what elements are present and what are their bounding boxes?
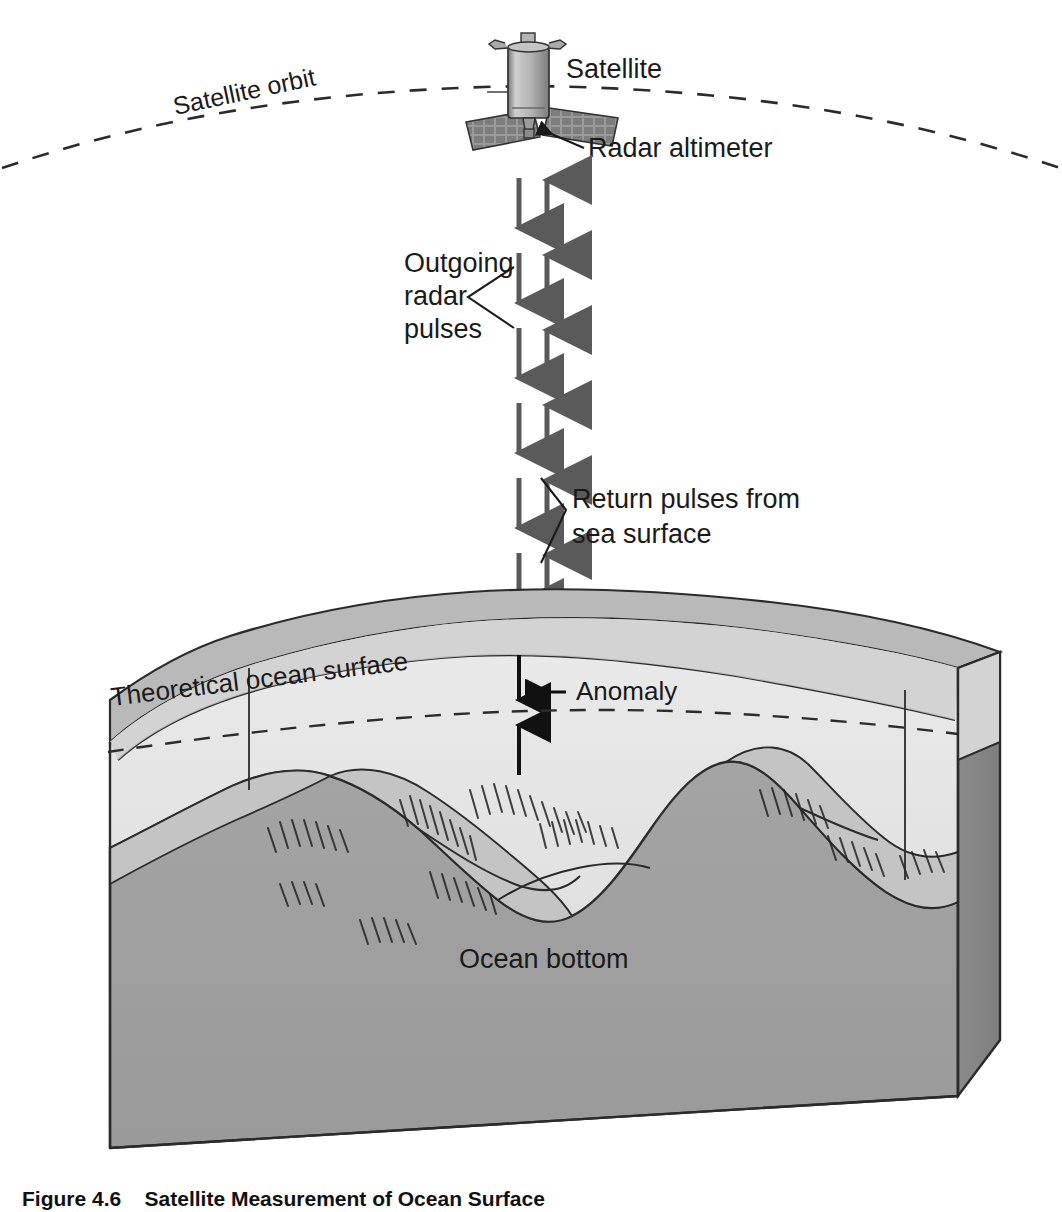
block-right-face: [958, 652, 1000, 1096]
radar-altimeter-label: Radar altimeter: [588, 133, 773, 163]
radar-altimeter-icon: [523, 118, 535, 138]
figure-caption: Figure 4.6 Satellite Measurement of Ocea…: [22, 1186, 1042, 1212]
satellite-orbit-label: Satellite orbit: [171, 62, 318, 119]
return-pulses-line2: sea surface: [572, 519, 712, 549]
outgoing-pulses-line1: Outgoing: [404, 248, 514, 278]
return-pulses-line1: Return pulses from: [572, 484, 800, 514]
satellite-body-icon: [487, 42, 549, 118]
caption-text: Satellite Measurement of Ocean Surface: [145, 1187, 545, 1210]
outgoing-pulses-line2: radar: [404, 281, 467, 311]
ocean-bottom-label: Ocean bottom: [459, 944, 629, 974]
satellite-label: Satellite: [566, 54, 662, 84]
outgoing-pulses-annotation: Outgoing radar pulses: [404, 248, 514, 344]
return-pulses-annotation: Return pulses from sea surface: [541, 478, 800, 563]
outgoing-pulses-line3: pulses: [404, 314, 482, 344]
anomaly-label: Anomaly: [576, 676, 677, 706]
caption-number: Figure 4.6: [22, 1187, 121, 1210]
